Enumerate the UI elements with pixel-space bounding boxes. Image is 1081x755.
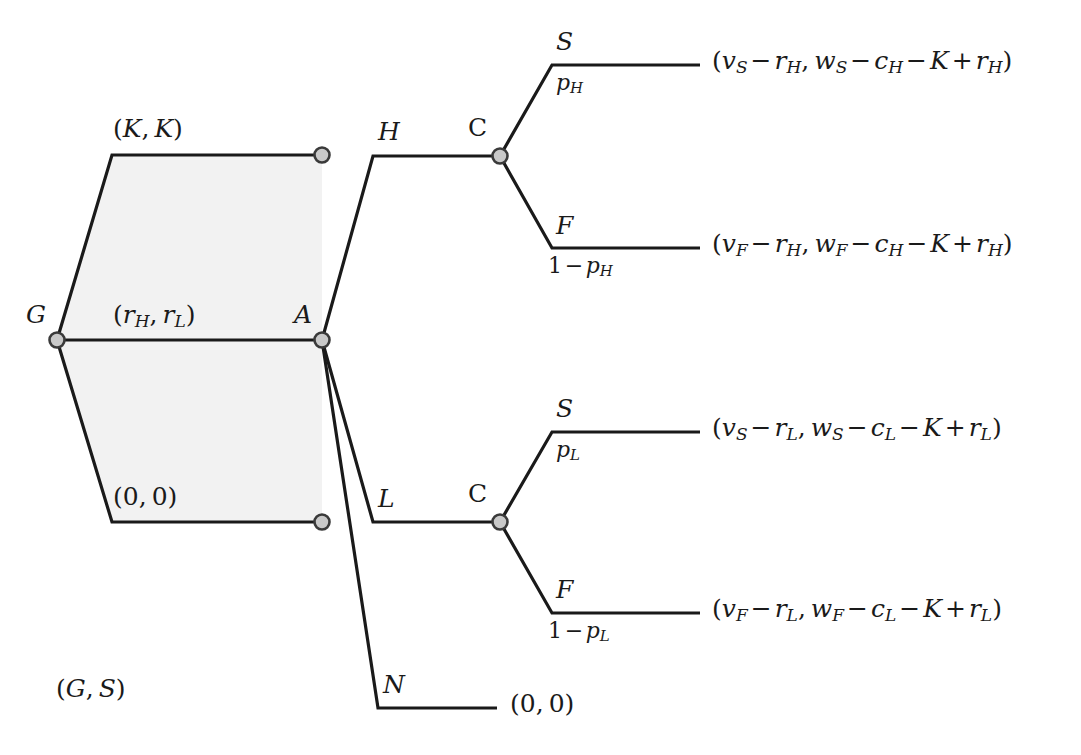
terminal-node-top-circle[interactable] xyxy=(315,148,330,163)
edge-label-n: N xyxy=(383,672,405,697)
terminal-payoff-fl: (vF−rL, wF−cL−K+rL) xyxy=(712,596,1002,624)
terminal-payoff-sl: (vS−rL, wS−cL−K+rL) xyxy=(712,415,1002,443)
node-label-g: G xyxy=(26,302,46,327)
player-pair-caption: (G, S) xyxy=(56,676,126,701)
probability-label-p-l: pL xyxy=(556,439,580,463)
edge-clower-to-s xyxy=(500,432,700,522)
payoff-label-zero-zero-left: (0, 0) xyxy=(113,484,177,509)
terminal-payoff-sh: (vS−rH, wS−cH−K+rH) xyxy=(712,48,1012,76)
edge-a-to-n xyxy=(322,340,497,708)
node-label-c-upper: C xyxy=(468,115,487,140)
node-a-circle[interactable] xyxy=(315,333,330,348)
edge-label-f-upper: F xyxy=(556,213,573,238)
edge-label-l: L xyxy=(378,486,395,511)
chance-node-lower-circle[interactable] xyxy=(493,515,508,530)
payoff-label-kk: (K, K) xyxy=(113,116,183,141)
edge-cupper-to-s xyxy=(500,65,700,156)
node-label-a: A xyxy=(294,302,312,327)
payoff-label-rh-rl: (rH, rL) xyxy=(113,302,196,330)
terminal-node-bottom-circle[interactable] xyxy=(315,515,330,530)
edge-clower-to-f xyxy=(500,522,700,613)
game-tree-figure: G A C C H L N S F S F pH 1−pH pL 1−pL (K… xyxy=(0,0,1081,755)
probability-label-one-minus-p-h: 1−pH xyxy=(548,255,613,279)
probability-label-one-minus-p-l: 1−pL xyxy=(548,620,610,644)
probability-label-p-h: pH xyxy=(556,72,583,96)
terminal-payoff-fh: (vF−rH, wF−cH−K+rH) xyxy=(712,231,1013,259)
terminal-payoff-n: (0, 0) xyxy=(510,691,574,716)
edge-cupper-to-f xyxy=(500,156,700,248)
edge-label-s-lower: S xyxy=(556,396,573,421)
node-g-circle[interactable] xyxy=(50,333,65,348)
node-label-c-lower: C xyxy=(468,481,487,506)
edge-label-f-lower: F xyxy=(556,577,573,602)
edge-a-to-h xyxy=(322,156,500,340)
chance-node-upper-circle[interactable] xyxy=(493,149,508,164)
edge-label-s-upper: S xyxy=(556,29,573,54)
edge-label-h: H xyxy=(378,119,400,144)
